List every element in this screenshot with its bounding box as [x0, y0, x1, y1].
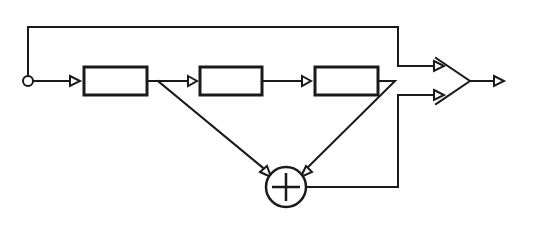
block-3: [315, 67, 378, 95]
arrowhead-icon: [302, 76, 311, 86]
block-1: [84, 67, 147, 95]
edge-sum-to-amp: [306, 95, 436, 187]
block-2: [200, 67, 262, 95]
summing-junction: [266, 167, 306, 207]
output-edge: [470, 76, 504, 86]
edge-input-to-block1: [33, 76, 80, 86]
arrowhead-icon: [188, 76, 197, 86]
output-arrowhead-icon: [494, 76, 504, 86]
arrowhead-icon: [70, 76, 80, 86]
edge-block1-to-block2: [147, 76, 197, 86]
edge-block2-to-block3: [262, 76, 311, 86]
block-diagram: [0, 0, 550, 230]
input-node: [23, 76, 33, 86]
